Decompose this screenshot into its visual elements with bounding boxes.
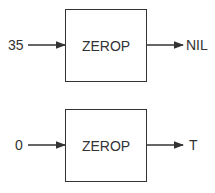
input-label-1: 35 [8,37,24,53]
function-box-2: ZEROP [65,109,147,182]
output-label-1: NIL [186,37,208,53]
input-label-2: 0 [15,137,23,153]
function-label-1: ZEROP [82,38,130,54]
function-label-2: ZEROP [82,138,130,154]
function-box-1: ZEROP [65,9,147,82]
output-label-2: T [189,137,198,153]
